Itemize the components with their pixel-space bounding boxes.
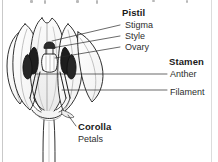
figure-canvas: Pistil Stigma Style Ovary Stamen Anther … <box>0 0 218 162</box>
page-rule-right <box>211 0 212 162</box>
label-stamen-anther: Anther <box>170 70 205 79</box>
label-corolla-heading: Corolla <box>78 122 111 132</box>
label-corolla-petals: Petals <box>78 135 111 144</box>
label-group-stamen: Stamen Anther Filament <box>169 57 205 97</box>
label-stamen-filament: Filament <box>170 88 205 97</box>
label-pistil-heading: Pistil <box>122 8 153 18</box>
label-pistil-style: Style <box>125 32 153 41</box>
label-group-pistil: Pistil Stigma Style Ovary <box>122 8 153 52</box>
label-pistil-stigma: Stigma <box>125 21 153 30</box>
label-group-corolla: Corolla Petals <box>78 122 111 144</box>
label-pistil-ovary: Ovary <box>125 43 153 52</box>
label-stamen-heading: Stamen <box>169 57 205 67</box>
